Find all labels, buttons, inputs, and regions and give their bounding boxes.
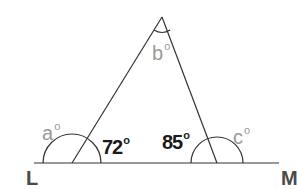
label-angle-85: 85o [162, 132, 189, 152]
label-angle-85-text: 85 [162, 131, 182, 153]
label-angle-72: 72o [102, 137, 129, 157]
label-angle-b-text: b [152, 42, 163, 64]
degree-symbol: o [54, 120, 60, 132]
label-angle-72-text: 72 [102, 136, 122, 158]
label-angle-a-text: a [42, 122, 53, 144]
degree-symbol: o [164, 40, 170, 52]
degree-symbol: o [123, 134, 129, 146]
label-angle-a: ao [42, 123, 60, 143]
degree-symbol: o [244, 124, 250, 136]
point-label-m: M [281, 168, 297, 188]
label-angle-c-text: c [233, 126, 243, 148]
point-label-l: L [26, 168, 38, 188]
label-angle-c: co [233, 127, 250, 147]
degree-symbol: o [183, 129, 189, 141]
label-angle-b: bo [152, 43, 170, 63]
triangle-diagram [0, 0, 297, 189]
